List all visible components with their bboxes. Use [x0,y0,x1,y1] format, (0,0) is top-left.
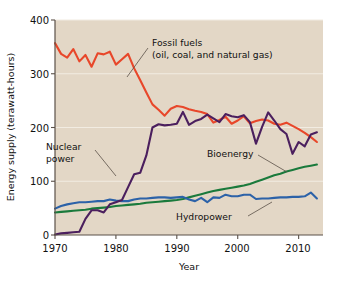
x-axis-title: Year [178,261,199,272]
x-tick-label-1990: 1990 [164,243,189,254]
x-tick-label-1970: 1970 [42,243,67,254]
x-tick-label-2010: 2010 [285,243,310,254]
energy-supply-line-chart: 400 300 200 100 0 1970 1980 1990 2000 20… [0,0,338,282]
y-tick-label-300: 300 [30,69,49,80]
bioenergy-label: Bioenergy [207,148,254,159]
chart-figure: 400 300 200 100 0 1970 1980 1990 2000 20… [0,0,338,282]
fossil-fuels-label-line1: Fossil fuels [152,37,202,48]
fossil-fuels-label-line2: (oil, coal, and natural gas) [152,49,273,60]
hydropower-label: Hydropower [176,211,232,222]
x-tick-label-2000: 2000 [224,243,249,254]
nuclear-power-label-line1: Nuclear [46,141,82,152]
y-axis-title: Energy supply (terawatt-hours) [5,53,16,201]
y-tick-label-0: 0 [43,230,49,241]
y-tick-label-400: 400 [30,15,49,26]
x-tick-label-1980: 1980 [103,243,128,254]
y-tick-label-100: 100 [30,176,49,187]
y-tick-label-200: 200 [30,123,49,134]
nuclear-power-label-line2: power [46,153,75,164]
